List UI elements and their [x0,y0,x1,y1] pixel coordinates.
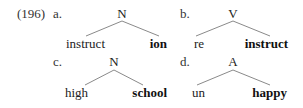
tree-b-right-branch [233,21,270,36]
tree-d-left-branch [197,70,233,85]
tree-d: d. A un happy [180,54,287,100]
tree-c-label: c. [53,54,62,69]
tree-d-label: d. [180,54,190,69]
tree-c-right-branch [114,70,143,85]
tree-c-left-morpheme: high [65,85,89,100]
tree-a-right-morpheme-head: ion [150,36,168,51]
tree-b-right-morpheme-head: instruct [245,36,289,51]
tree-b-root: V [228,6,238,21]
example-number: (196) [17,6,45,21]
tree-c-root: N [109,54,119,69]
tree-a-label: a. [53,6,62,21]
tree-a-left-morpheme: instruct [66,36,105,51]
linguistic-example-196: (196) a. N instruct ion b. V re instruct… [0,0,303,108]
morphology-trees-figure: (196) a. N instruct ion b. V re instruct… [0,0,303,108]
tree-d-root: A [228,54,238,69]
tree-a: a. N instruct ion [53,6,168,51]
tree-d-right-morpheme-head: happy [252,85,287,100]
tree-c-left-branch [85,70,114,85]
tree-c: c. N high school [53,54,167,100]
tree-a-left-branch [86,21,122,36]
tree-a-right-branch [122,21,159,36]
tree-c-right-morpheme-head: school [132,85,167,100]
tree-b-left-branch [196,21,233,36]
tree-d-left-morpheme: un [192,85,206,100]
tree-b-left-morpheme: re [194,36,204,51]
tree-a-root: N [117,6,127,21]
tree-b-label: b. [180,6,190,21]
tree-b: b. V re instruct [180,6,289,51]
tree-d-right-branch [233,70,270,85]
